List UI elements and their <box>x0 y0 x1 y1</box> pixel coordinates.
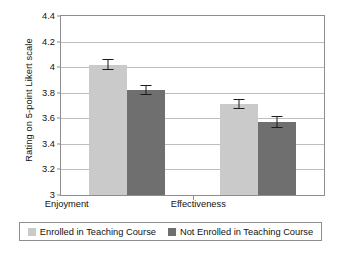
error-bar-cap-bottom <box>140 94 151 95</box>
error-bar-cap-bottom <box>272 127 283 128</box>
error-bar-cap-top <box>140 85 151 86</box>
bar <box>127 90 165 195</box>
error-bar-cap-top <box>234 99 245 100</box>
y-axis-tick-label: 3.4 <box>42 139 55 149</box>
y-axis-tick-label: 3.6 <box>42 113 55 123</box>
plot-area: 33.23.43.63.844.24.4 <box>60 15 325 196</box>
y-axis-tick-label: 4.2 <box>42 37 55 47</box>
error-bar-cap-bottom <box>102 69 113 70</box>
bar-chart-figure: Rating on 5-point Likert scale 33.23.43.… <box>0 0 341 255</box>
error-bar <box>258 116 296 128</box>
legend-label-enrolled: Enrolled in Teaching Course <box>40 227 156 237</box>
bar <box>258 122 296 195</box>
y-axis-tick-label: 3.2 <box>42 164 55 174</box>
y-axis-tick-label: 3.8 <box>42 88 55 98</box>
error-bar-cap-top <box>102 59 113 60</box>
x-axis-category-label: Enjoyment <box>7 199 127 209</box>
legend-label-not-enrolled: Not Enrolled in Teaching Course <box>180 227 313 237</box>
legend: Enrolled in Teaching Course Not Enrolled… <box>19 222 322 241</box>
bar <box>220 104 258 195</box>
bars-layer <box>61 16 324 195</box>
legend-swatch-icon-not-enrolled <box>168 228 176 236</box>
y-axis-title: Rating on 5-point Likert scale <box>24 8 34 193</box>
error-bar-cap-top <box>272 116 283 117</box>
error-bar <box>127 85 165 95</box>
legend-item-not-enrolled: Not Enrolled in Teaching Course <box>168 227 313 237</box>
error-bar-cap-bottom <box>234 108 245 109</box>
bar <box>89 65 127 195</box>
legend-item-enrolled: Enrolled in Teaching Course <box>28 227 156 237</box>
y-axis-tick-label: 4.4 <box>42 11 55 21</box>
error-bar <box>89 59 127 71</box>
error-bar <box>220 99 258 109</box>
x-axis-category-label: Effectiveness <box>138 199 258 209</box>
y-axis-tick-label: 4 <box>50 62 55 72</box>
legend-swatch-icon-enrolled <box>28 228 36 236</box>
